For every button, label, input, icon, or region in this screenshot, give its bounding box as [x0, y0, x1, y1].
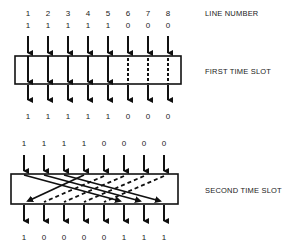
input-bit: 1 [42, 139, 47, 148]
input-bit: 1 [26, 21, 31, 30]
input-bit: 0 [146, 21, 151, 30]
first-slot-output-arrows [28, 85, 168, 100]
output-bit: 1 [22, 233, 27, 242]
input-bit: 0 [126, 21, 131, 30]
input-bit: 1 [66, 21, 71, 30]
first-slot-label: FIRST TIME SLOT [205, 67, 271, 76]
output-bit: 0 [82, 233, 87, 242]
first-slot-inputs: 1 1 1 1 1 0 0 0 [26, 21, 171, 30]
output-bit: 0 [42, 233, 47, 242]
line-number: 5 [106, 9, 111, 18]
line-number: 1 [26, 9, 31, 18]
input-bit: 0 [142, 139, 147, 148]
output-bit: 1 [66, 112, 71, 121]
output-bit: 1 [26, 112, 31, 121]
first-slot-switch-box [15, 56, 181, 84]
first-slot-line-numbers: 1 2 3 4 5 6 7 8 [26, 9, 171, 18]
line-number: 7 [146, 9, 151, 18]
solid-path [44, 175, 140, 201]
second-slot-inputs: 1 1 1 1 0 0 0 0 [22, 139, 167, 148]
input-bit: 1 [86, 21, 91, 30]
line-number: 6 [126, 9, 131, 18]
output-bit: 0 [146, 112, 151, 121]
input-bit: 1 [46, 21, 51, 30]
line-number: 3 [66, 9, 71, 18]
output-bit: 0 [62, 233, 67, 242]
second-slot-input-arrows [24, 155, 164, 171]
line-number-label: LINE NUMBER [205, 9, 259, 18]
second-slot-label: SECOND TIME SLOT [205, 186, 282, 195]
output-bit: 1 [46, 112, 51, 121]
output-bit: 0 [102, 233, 107, 242]
line-number: 2 [46, 9, 51, 18]
input-bit: 0 [102, 139, 107, 148]
output-bit: 1 [142, 233, 147, 242]
output-bit: 1 [122, 233, 127, 242]
first-slot-outputs: 1 1 1 1 1 0 0 0 [26, 112, 171, 121]
input-bit: 0 [166, 21, 171, 30]
input-bit: 0 [122, 139, 127, 148]
first-slot-paths [28, 56, 168, 84]
first-slot-input-arrows [28, 36, 168, 53]
input-bit: 1 [82, 139, 87, 148]
time-slot-diagram: 1 2 3 4 5 6 7 8 LINE NUMBER 1 1 1 1 1 0 … [0, 0, 285, 248]
output-bit: 0 [126, 112, 131, 121]
line-number: 4 [86, 9, 91, 18]
output-bit: 1 [106, 112, 111, 121]
output-bit: 1 [162, 233, 167, 242]
input-bit: 0 [162, 139, 167, 148]
input-bit: 1 [22, 139, 27, 148]
output-bit: 0 [166, 112, 171, 121]
line-number: 8 [166, 9, 171, 18]
second-slot-paths [24, 175, 164, 202]
output-bit: 1 [86, 112, 91, 121]
input-bit: 1 [106, 21, 111, 30]
second-slot-outputs: 1 0 0 0 0 1 1 1 [22, 233, 167, 242]
second-slot-output-arrows [24, 205, 164, 221]
input-bit: 1 [62, 139, 67, 148]
